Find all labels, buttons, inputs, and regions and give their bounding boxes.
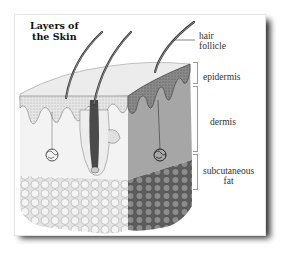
label-subcutaneous-line-1: subcutaneous	[203, 166, 254, 176]
title-line-1: Layers of	[30, 20, 78, 31]
bracket-subcutaneous-fat	[193, 154, 198, 190]
label-hair-follicle-line-2: follicle	[199, 41, 226, 51]
label-dermis: dermis	[210, 117, 236, 127]
label-epidermis: epidermis	[203, 72, 240, 82]
label-hair-follicle-line-1: hair	[199, 31, 226, 41]
subcutaneous-fat-front	[20, 176, 128, 234]
label-subcutaneous-fat: subcutaneous fat	[203, 166, 254, 186]
figure-title: Layers of the Skin	[30, 20, 78, 42]
title-line-2: the Skin	[30, 31, 78, 42]
label-hair-follicle: hair follicle	[199, 31, 226, 51]
bracket-dermis	[193, 86, 198, 152]
label-subcutaneous-line-2: fat	[203, 176, 254, 186]
bracket-epidermis	[193, 62, 198, 84]
